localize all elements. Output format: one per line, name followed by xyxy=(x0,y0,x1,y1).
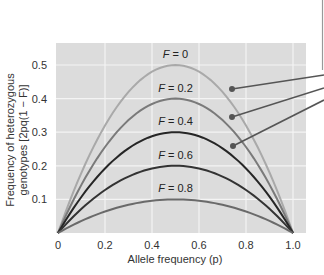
x-tick-label: 0 xyxy=(55,239,61,251)
x-tick-labels: 00.20.40.60.81.0 xyxy=(55,239,301,251)
y-tick-label: 0.5 xyxy=(32,59,47,71)
curve-label: F = 0.6 xyxy=(158,149,193,161)
y-axis-label-line1: Frequency of heterozygous xyxy=(4,73,16,207)
curve-label: F = 0.8 xyxy=(158,182,193,194)
y-tick-label: 0.3 xyxy=(32,126,47,138)
x-tick-label: 1.0 xyxy=(285,239,300,251)
x-tick-label: 0.8 xyxy=(238,239,253,251)
y-tick-labels: 0.10.20.30.40.5 xyxy=(32,59,47,205)
curve-label: F = 0 xyxy=(163,48,188,60)
callout-dot xyxy=(230,87,234,91)
y-axis-label-line2: genotypes [2pq(1 − F)] xyxy=(17,85,29,196)
heterozygosity-chart: F = 0F = 0.2F = 0.4F = 0.6F = 0.8 00.20.… xyxy=(0,0,324,275)
y-tick-label: 0.2 xyxy=(32,160,47,172)
callout-dot xyxy=(231,144,235,148)
plot-area xyxy=(56,43,306,233)
x-tick-label: 0.6 xyxy=(191,239,206,251)
y-tick-label: 0.4 xyxy=(32,93,47,105)
x-tick-label: 0.2 xyxy=(97,239,112,251)
x-axis-label: Allele frequency (p) xyxy=(128,253,223,265)
curve-label: F = 0.2 xyxy=(158,82,193,94)
x-tick-label: 0.4 xyxy=(144,239,159,251)
y-tick-label: 0.1 xyxy=(32,193,47,205)
curve-label: F = 0.4 xyxy=(158,115,193,127)
callout-dot xyxy=(230,115,234,119)
